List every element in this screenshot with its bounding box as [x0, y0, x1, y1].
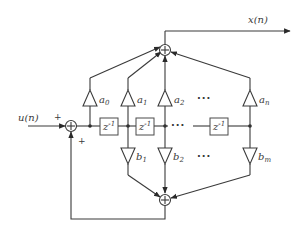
delay-block-2: z-1	[136, 118, 154, 135]
gain-b2: b2	[158, 126, 184, 193]
svg-text:an: an	[259, 94, 270, 107]
output-label: x(n)	[248, 14, 268, 25]
gain-a0: a0	[83, 47, 160, 126]
feedback-ellipsis: ···	[197, 151, 211, 162]
input-summing-junction	[66, 121, 77, 132]
svg-text:b1: b1	[136, 151, 147, 164]
svg-text:a0: a0	[99, 94, 110, 107]
svg-text:bm: bm	[258, 151, 271, 164]
iir-filter-diagram: u(n) + + ··· z-1 z-1 z-1 a0	[0, 0, 306, 232]
gain-b1: b1	[121, 126, 160, 197]
gain-a1: a1	[121, 52, 161, 126]
delay-block-1: z-1	[100, 118, 118, 135]
gain-a2: a2	[158, 56, 185, 126]
svg-text:b2: b2	[173, 151, 184, 164]
feedforward-ellipsis: ···	[197, 93, 211, 104]
feedback-summing-junction	[160, 195, 171, 206]
delay-block-n: z-1	[210, 118, 228, 135]
input-sum-sign-bottom: +	[78, 136, 86, 146]
svg-text:a1: a1	[137, 94, 147, 107]
output-summing-junction	[160, 45, 171, 56]
input-sum-sign-top: +	[54, 112, 62, 122]
gain-bm: bm	[171, 126, 271, 198]
input-label: u(n)	[18, 112, 39, 123]
gain-an: an	[171, 52, 270, 126]
svg-text:a2: a2	[174, 94, 185, 107]
delay-ellipsis: ···	[171, 120, 185, 131]
